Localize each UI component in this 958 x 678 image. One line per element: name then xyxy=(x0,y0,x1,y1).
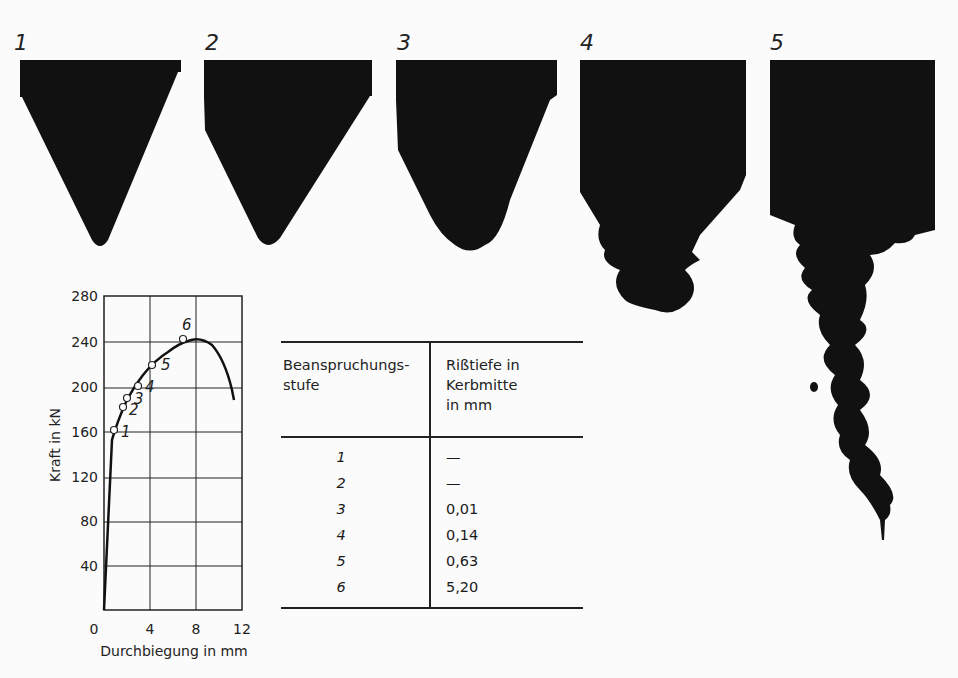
svg-text:240: 240 xyxy=(71,334,98,350)
table-row: 40,14 xyxy=(281,527,583,549)
point-4 xyxy=(135,383,142,390)
point-6 xyxy=(180,336,187,343)
svg-text:80: 80 xyxy=(80,513,98,529)
y-axis-label: Kraft in kN xyxy=(47,408,63,482)
header-col2: Rißtiefe in Kerbmitte in mm xyxy=(446,355,520,415)
svg-text:4: 4 xyxy=(146,621,155,637)
svg-text:1: 1 xyxy=(121,423,131,441)
svg-text:4: 4 xyxy=(145,378,155,396)
svg-text:120: 120 xyxy=(71,469,98,485)
svg-text:5: 5 xyxy=(161,356,171,374)
table-row: 2— xyxy=(281,475,583,497)
header-col1: Beanspruchungs- stufe xyxy=(283,355,409,395)
point-1 xyxy=(111,427,118,434)
x-axis-label: Durchbiegung in mm xyxy=(100,643,248,659)
svg-text:280: 280 xyxy=(71,288,98,304)
svg-text:8: 8 xyxy=(192,621,201,637)
svg-text:200: 200 xyxy=(71,379,98,395)
table-row: 50,63 xyxy=(281,553,583,575)
point-5 xyxy=(149,362,156,369)
force-curve xyxy=(104,339,234,610)
svg-text:12: 12 xyxy=(233,621,251,637)
svg-text:0: 0 xyxy=(90,621,99,637)
point-2 xyxy=(120,404,127,411)
svg-text:3: 3 xyxy=(134,390,144,408)
svg-text:6: 6 xyxy=(182,316,192,334)
table-row: 30,01 xyxy=(281,501,583,523)
crack-depth-table: Beanspruchungs- stufe Rißtiefe in Kerbmi… xyxy=(281,341,583,609)
svg-text:160: 160 xyxy=(71,424,98,440)
table-row: 65,20 xyxy=(281,579,583,601)
svg-text:40: 40 xyxy=(80,558,98,574)
table-row: 1— xyxy=(281,449,583,471)
